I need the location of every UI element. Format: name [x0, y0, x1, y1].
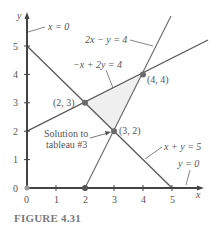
- leader-neg-x-2y: [106, 70, 113, 88]
- x-tick-label-4: 4: [141, 194, 146, 205]
- annotation-line2: tableau #3: [46, 139, 87, 150]
- label-neg-x-plus-2y: −x + 2y = 4: [73, 59, 122, 70]
- point-4-4: [140, 71, 146, 77]
- leader-2x-y: [130, 40, 153, 46]
- x-tick-label-0: 0: [24, 194, 29, 205]
- point-label-2-3: (2, 3): [53, 97, 75, 109]
- x-axis-label: x: [195, 189, 201, 200]
- y-tick-label-1: 1: [13, 154, 18, 165]
- point-label-3-2: (3, 2): [119, 125, 141, 137]
- leader-x0: [28, 27, 45, 32]
- x-tick-label-3: 3: [112, 194, 117, 205]
- lp-graph: 0 1 2 3 4 5 0 1 2 3 4 5 y x (2, 3) (4, 4…: [0, 0, 216, 228]
- y-axis-arrow: [25, 12, 30, 19]
- x-tick-label-5: 5: [170, 194, 175, 205]
- y-tick-label-5: 5: [13, 41, 18, 52]
- x-tick-label-1: 1: [54, 194, 59, 205]
- x-tick-label-2: 2: [83, 194, 88, 205]
- label-x0: x = 0: [47, 21, 69, 32]
- point-3-2: [111, 128, 117, 134]
- y-tick-label-0: 0: [13, 183, 18, 194]
- figure-caption: FIGURE 4.31: [14, 212, 81, 224]
- annotation-arrow: [90, 133, 108, 138]
- feasible-region: [85, 74, 143, 131]
- label-2x-minus-y: 2x − y = 4: [85, 34, 127, 45]
- label-x-plus-y: x + y = 5: [163, 141, 201, 152]
- leader-y0: [186, 170, 190, 185]
- point-2-0: [82, 185, 88, 191]
- y-tick-label-3: 3: [13, 97, 18, 108]
- y-tick-label-2: 2: [13, 126, 18, 137]
- point-label-4-4: (4, 4): [147, 74, 169, 86]
- label-y0: y = 0: [177, 158, 199, 169]
- annotation-arrowhead: [105, 131, 111, 136]
- point-origin: [25, 186, 30, 191]
- y-axis-label: y: [16, 10, 22, 21]
- point-2-3: [82, 100, 88, 106]
- leader-x-plus-y: [145, 147, 162, 159]
- y-tick-label-4: 4: [13, 69, 18, 80]
- annotation-line1: Solution to: [44, 128, 88, 139]
